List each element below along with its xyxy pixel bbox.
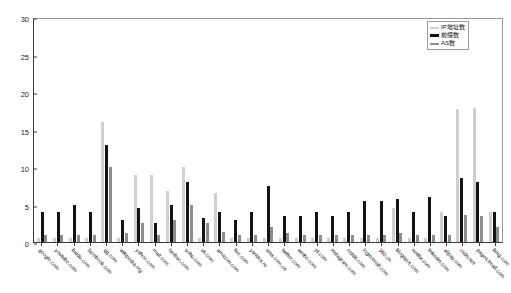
y-axis-tick-label: 30 (21, 15, 29, 24)
bar-group (212, 19, 228, 242)
x-axis-label-slot: 360.cn (373, 247, 389, 293)
legend-item: AS数 (430, 40, 465, 47)
bar (250, 212, 253, 242)
bar (182, 167, 185, 242)
y-axis-tick-label: 25 (21, 52, 29, 61)
bar (186, 182, 189, 242)
y-axis-tick-label: 15 (21, 127, 29, 136)
bar (77, 235, 80, 243)
bar (351, 235, 354, 243)
bar (444, 216, 447, 242)
bar (117, 238, 120, 243)
bar (428, 197, 431, 242)
chart-legend: IP地址数前缀数AS数 (427, 21, 469, 50)
bar (214, 193, 217, 242)
bar (311, 238, 314, 243)
bar (392, 208, 395, 243)
bar (170, 205, 173, 243)
bar (93, 235, 96, 243)
x-axis-label-slot: netflix.com (406, 247, 422, 293)
bar (198, 238, 201, 243)
x-axis-label-slot: baidu.com (65, 247, 81, 293)
bar (267, 186, 270, 242)
x-axis-label-slot: linkedin.com (422, 247, 438, 293)
x-axis-label-slot: csdn.net (454, 247, 470, 293)
bar-group (260, 19, 276, 242)
bar (399, 233, 402, 242)
bar (173, 220, 176, 243)
legend-label: IP地址数 (441, 24, 465, 31)
bar (89, 212, 92, 242)
bar (460, 178, 463, 243)
bar (448, 235, 451, 243)
bar (109, 167, 112, 242)
bar (456, 109, 459, 243)
legend-item: 前缀数 (430, 32, 465, 39)
x-axis-label-slot: twitter.com (276, 247, 292, 293)
bar-group (244, 19, 260, 242)
bar (41, 212, 44, 242)
bar (331, 216, 334, 242)
bar-group (389, 19, 405, 242)
y-axis-tick-label: 0 (25, 240, 29, 249)
x-axis-label-slot: taobao.com (163, 247, 179, 293)
bar (85, 238, 88, 243)
x-axis-label-slot: pages.tmall.com (470, 247, 486, 293)
bar (279, 238, 282, 243)
bar-group (66, 19, 82, 242)
bar-group (438, 19, 454, 242)
bar (363, 201, 366, 242)
x-axis-label-slot: alipay.com (438, 247, 454, 293)
legend-swatch (430, 34, 439, 37)
x-axis-label-slot: wikipedia.org (114, 247, 130, 293)
y-axis-tick-label: 10 (21, 165, 29, 174)
bar (299, 216, 302, 242)
bar (295, 238, 298, 243)
bar (125, 233, 128, 242)
bar (238, 235, 241, 243)
bar-group (454, 19, 470, 242)
bar-group (373, 19, 389, 242)
bar (137, 208, 140, 242)
bar (476, 182, 479, 242)
bar-group (163, 19, 179, 242)
bar (157, 235, 160, 243)
bar (480, 216, 483, 242)
bar-group (276, 19, 292, 242)
bar-group (228, 19, 244, 242)
bar (283, 216, 286, 242)
plot-area: 051015202530 (33, 18, 503, 243)
x-axis-label-slot: live.com (227, 247, 243, 293)
bar (412, 212, 415, 242)
x-axis-label-slot: facebook.com (82, 247, 98, 293)
bar (44, 235, 47, 243)
bar (234, 220, 237, 243)
bar (496, 227, 499, 242)
x-axis-label-slot: reddit.com (341, 247, 357, 293)
bar-group (82, 19, 98, 242)
bar (134, 175, 137, 243)
bar-chart-figure: 051015202530 google.comyoutube.combaidu.… (0, 0, 511, 293)
bar (286, 233, 289, 242)
bar-group (131, 19, 147, 242)
bar (206, 223, 209, 242)
legend-swatch (430, 27, 439, 29)
x-axis-labels: google.comyoutube.combaidu.comfacebook.c… (33, 247, 503, 293)
x-axis-label-slot: sohu.com (179, 247, 195, 293)
x-axis-label-slot: login.tmall.com (357, 247, 373, 293)
x-axis-label-slot: yahoo.com (130, 247, 146, 293)
bar (263, 238, 266, 243)
x-axis-label-slot: sina.com.cn (260, 247, 276, 293)
bar (222, 232, 225, 243)
bar (270, 227, 273, 242)
legend-label: AS数 (441, 40, 455, 47)
x-axis-label-slot: qq.com (98, 247, 114, 293)
x-axis-label-slot: jd.com (308, 247, 324, 293)
bar (327, 238, 330, 243)
y-axis-tick-label: 20 (21, 90, 29, 99)
bar-group (486, 19, 502, 242)
bar (154, 223, 157, 242)
bar (489, 212, 492, 242)
bar-group (147, 19, 163, 242)
bar-group (308, 19, 324, 242)
